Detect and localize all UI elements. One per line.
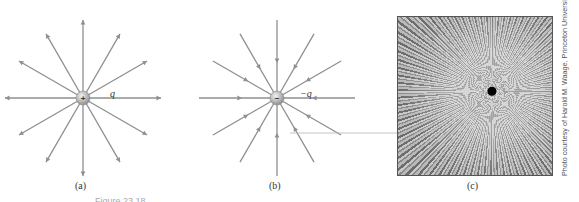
panel-b-negative-charge: − xyxy=(199,20,355,176)
panel-a-positive-charge: + xyxy=(5,20,161,176)
photo-credit: Photo courtesy of Harold M. Waage, Princ… xyxy=(560,0,569,176)
panel-label-b: (b) xyxy=(269,180,281,191)
charge-label-a: q xyxy=(110,88,115,99)
field-photo xyxy=(397,16,553,176)
panel-label-a: (a) xyxy=(75,180,86,191)
svg-text:−: − xyxy=(275,94,280,103)
figure-caption: Figure 23.18 xyxy=(95,196,146,202)
panel-label-c: (c) xyxy=(467,180,478,191)
charge-label-b: −q xyxy=(300,88,312,99)
svg-text:+: + xyxy=(81,94,86,103)
